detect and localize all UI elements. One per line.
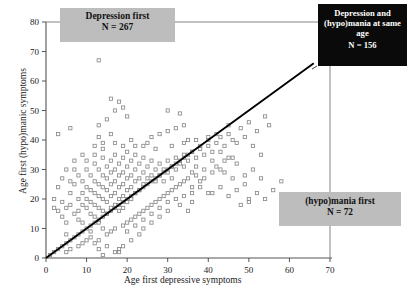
annotation-depression-first-text: Depression first xyxy=(60,11,175,22)
data-point xyxy=(150,203,153,206)
data-point xyxy=(85,206,88,209)
x-tick-label: 60 xyxy=(285,265,295,275)
data-point xyxy=(215,141,218,144)
data-point xyxy=(263,197,266,200)
data-point xyxy=(154,200,157,203)
data-point xyxy=(117,186,120,189)
data-point xyxy=(255,192,258,195)
data-point xyxy=(85,239,88,242)
data-point xyxy=(97,59,100,62)
data-point xyxy=(89,189,92,192)
data-point xyxy=(109,230,112,233)
x-tick-label: 30 xyxy=(163,265,173,275)
data-point xyxy=(113,109,116,112)
data-point xyxy=(126,115,129,118)
data-point xyxy=(81,242,84,245)
data-point xyxy=(113,141,116,144)
data-point xyxy=(138,212,141,215)
data-point xyxy=(85,197,88,200)
data-point xyxy=(207,192,210,195)
data-point xyxy=(134,224,137,227)
data-point xyxy=(150,212,153,215)
data-point xyxy=(162,180,165,183)
annotation-hypomania-first-count: N = 72 xyxy=(279,207,401,218)
data-point xyxy=(121,224,124,227)
data-point xyxy=(219,135,222,138)
data-point xyxy=(146,206,149,209)
data-point xyxy=(170,177,173,180)
data-point xyxy=(121,106,124,109)
data-point xyxy=(81,180,84,183)
data-point xyxy=(182,165,185,168)
data-point xyxy=(117,162,120,165)
data-point xyxy=(199,180,202,183)
data-point xyxy=(215,165,218,168)
data-point xyxy=(121,245,124,248)
data-point xyxy=(186,209,189,212)
annotation-same-age-text: Depression and (hypo)mania at same age xyxy=(318,8,407,38)
data-point xyxy=(77,174,80,177)
data-point xyxy=(69,203,72,206)
data-point xyxy=(101,253,104,256)
identity-line xyxy=(46,63,314,258)
data-point xyxy=(130,138,133,141)
data-point xyxy=(113,192,116,195)
data-point xyxy=(97,239,100,242)
data-point xyxy=(219,186,222,189)
data-point xyxy=(146,177,149,180)
data-point xyxy=(121,206,124,209)
data-point xyxy=(263,115,266,118)
x-tick-label: 20 xyxy=(123,265,133,275)
data-point xyxy=(73,183,76,186)
identity-reference-line xyxy=(46,63,314,258)
data-point xyxy=(73,212,76,215)
data-point xyxy=(235,189,238,192)
data-point xyxy=(219,150,222,153)
data-point xyxy=(223,144,226,147)
data-point xyxy=(174,127,177,130)
data-point xyxy=(170,144,173,147)
data-point xyxy=(138,233,141,236)
data-point xyxy=(105,189,108,192)
data-point xyxy=(243,135,246,138)
data-point xyxy=(105,118,108,121)
annotation-same-age: Depression and (hypo)mania at same age N… xyxy=(318,4,407,66)
data-point xyxy=(142,156,145,159)
data-point xyxy=(77,218,80,221)
data-point xyxy=(69,192,72,195)
data-point xyxy=(178,203,181,206)
data-point xyxy=(109,97,112,100)
data-point xyxy=(65,168,68,171)
data-point xyxy=(251,168,254,171)
data-point xyxy=(174,156,177,159)
y-tick-label: 80 xyxy=(30,17,40,27)
data-point xyxy=(121,194,124,197)
data-point xyxy=(81,203,84,206)
data-point xyxy=(239,203,242,206)
data-point xyxy=(259,153,262,156)
data-point xyxy=(199,186,202,189)
data-point xyxy=(117,197,120,200)
data-point xyxy=(121,156,124,159)
x-tick-label: 40 xyxy=(204,265,214,275)
data-point xyxy=(247,121,250,124)
data-point xyxy=(190,200,193,203)
data-point xyxy=(89,200,92,203)
data-point xyxy=(174,168,177,171)
data-point xyxy=(101,186,104,189)
data-point xyxy=(211,150,214,153)
data-point xyxy=(93,153,96,156)
data-point xyxy=(134,215,137,218)
data-point xyxy=(89,212,92,215)
data-point xyxy=(130,159,133,162)
data-point xyxy=(195,138,198,141)
data-point xyxy=(109,194,112,197)
data-point xyxy=(53,197,56,200)
data-point xyxy=(97,206,100,209)
data-points-layer xyxy=(48,59,282,257)
data-point xyxy=(182,194,185,197)
data-point xyxy=(166,130,169,133)
data-point xyxy=(126,189,129,192)
data-point xyxy=(130,174,133,177)
data-point xyxy=(65,251,68,254)
